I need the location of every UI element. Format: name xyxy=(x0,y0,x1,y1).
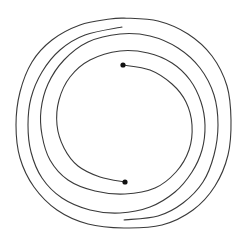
path-endpoints xyxy=(120,62,127,184)
strand-from-top-dot xyxy=(40,34,218,220)
strand-from-bottom-dot xyxy=(28,27,205,213)
outermost-loop xyxy=(16,18,231,228)
maze-paths xyxy=(16,18,231,228)
end-dot xyxy=(122,179,127,184)
start-dot xyxy=(120,62,125,67)
maze-diagram xyxy=(0,0,241,242)
